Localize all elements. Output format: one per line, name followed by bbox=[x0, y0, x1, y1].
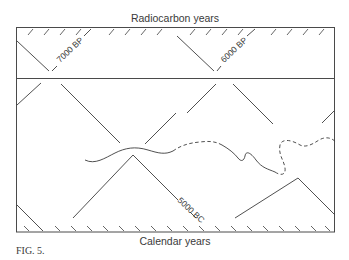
bottom-hatching bbox=[24, 226, 330, 231]
calibration-curve bbox=[85, 138, 336, 175]
label-5000-bc: 5000 BC bbox=[176, 195, 207, 225]
radiocarbon-years-label: Radiocarbon years bbox=[131, 12, 219, 24]
radiocarbon-calibration-diagram: Radiocarbon years 7000 BP 6000 BP bbox=[0, 0, 349, 260]
figure-caption: FIG. 5. bbox=[16, 245, 45, 256]
label-6000-bp: 6000 BP bbox=[219, 35, 250, 65]
calendar-years-label: Calendar years bbox=[139, 235, 210, 247]
lower-panel-lines bbox=[17, 83, 335, 231]
upper-panel-lines bbox=[17, 29, 255, 71]
label-7000-bp: 7000 BP bbox=[55, 35, 86, 65]
top-hatching bbox=[28, 29, 324, 35]
